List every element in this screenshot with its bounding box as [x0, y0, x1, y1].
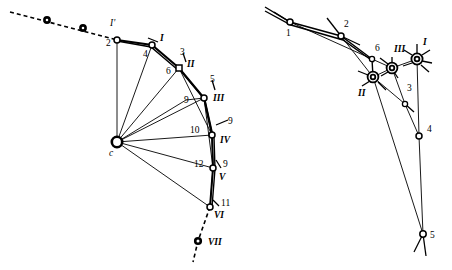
dashed-node-b [80, 25, 85, 30]
outer-chain-path [117, 40, 213, 207]
label-r5: 5 [430, 230, 435, 240]
dashed-trajectory-upper [10, 12, 117, 40]
edge-4-to-6 [152, 45, 179, 68]
node-r4 [416, 133, 422, 139]
edge-II-to-5 [373, 77, 423, 234]
label-10: 10 [190, 125, 200, 135]
node-III [201, 95, 207, 101]
spoke-I-e [422, 61, 432, 63]
node-IV [209, 132, 215, 138]
node-6 [176, 65, 182, 71]
label-I: I [159, 33, 164, 43]
label-7: 9 [228, 116, 233, 126]
chain-main-upper [265, 7, 373, 77]
label-c: c [109, 148, 114, 158]
node-VII [195, 238, 201, 244]
left-panel: I' 2 I 4 3 II 6 5 III 9 9 10 IV 12 9 V 1… [10, 12, 233, 262]
spoke-II-a [358, 71, 368, 75]
edge-c-to-IV [117, 135, 212, 142]
label-rI: I [422, 37, 427, 47]
label-5: 5 [210, 74, 215, 84]
label-IV: IV [219, 135, 231, 145]
node-2 [114, 37, 120, 43]
label-I-prime: I' [109, 18, 116, 28]
node-r5 [420, 231, 426, 237]
label-r1: 1 [286, 28, 291, 38]
edge-c-to-6 [117, 68, 179, 142]
node-rIII-inner [390, 66, 395, 71]
spoke-I-b [404, 50, 412, 55]
right-panel: 1 2 6 III I II 3 4 5 [265, 7, 435, 256]
node-4 [149, 42, 155, 48]
label-11: 11 [221, 198, 230, 208]
node-r3 [402, 101, 407, 106]
figure-root: I' 2 I 4 3 II 6 5 III 9 9 10 IV 12 9 V 1… [0, 0, 452, 270]
node-V [210, 165, 216, 171]
label-r4: 4 [427, 124, 432, 134]
node-r2 [338, 33, 344, 39]
label-II: II [186, 59, 195, 69]
technical-diagram-svg: I' 2 I 4 3 II 6 5 III 9 9 10 IV 12 9 V 1… [0, 0, 452, 270]
edge-1-to-6 [290, 22, 372, 59]
edge-c-to-9chord [117, 100, 186, 142]
label-V: V [219, 172, 226, 182]
node-rII-inner [371, 75, 376, 80]
label-4: 4 [143, 49, 148, 59]
node-VI [207, 204, 213, 210]
node-r1 [287, 19, 293, 25]
edge-I-to-4-to-5 [417, 59, 423, 234]
node-c-center [112, 137, 122, 147]
label-rII: II [357, 88, 366, 98]
tick-9b [216, 160, 221, 168]
dashed-node-a [44, 17, 49, 22]
node-r6 [369, 56, 374, 61]
label-9b: 9 [223, 159, 228, 169]
spoke-I-f [421, 65, 429, 72]
spoke-II-c [378, 82, 386, 90]
edge-c-to-VI [117, 142, 210, 207]
dashed-trajectory-lower [193, 207, 210, 262]
spoke-I-c [422, 50, 430, 55]
label-r2: 2 [344, 19, 349, 29]
label-12: 12 [194, 159, 204, 169]
label-2: 2 [106, 38, 111, 48]
chain-main-upper-offset [265, 11, 374, 62]
label-3: 3 [180, 47, 185, 57]
node-rI-inner [415, 57, 420, 62]
label-VI: VI [214, 210, 224, 220]
label-rIII: III [393, 44, 405, 54]
tick-11 [213, 200, 219, 206]
label-r6: 6 [375, 43, 380, 53]
tick-7 [216, 120, 228, 125]
label-III: III [212, 93, 224, 103]
label-9: 9 [184, 95, 189, 105]
label-6: 6 [166, 66, 171, 76]
edge-3-to-4 [405, 104, 419, 136]
spoke-II-b [362, 81, 370, 86]
label-r3: 3 [407, 83, 412, 93]
label-VII: VII [208, 237, 222, 247]
